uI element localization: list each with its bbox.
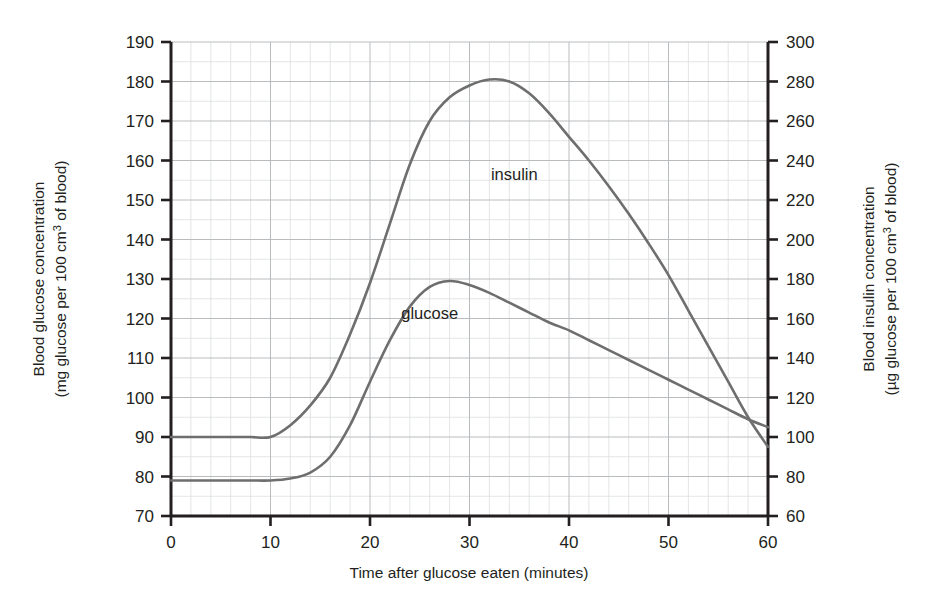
y-axis-left-tick-label: 100 (126, 389, 154, 408)
y-axis-right-tick-label: 100 (786, 428, 814, 447)
y-left-axis-title-line2: (mg glucose per 100 cm3 of blood) (51, 160, 69, 397)
y-axis-left-tick-label: 140 (126, 231, 154, 250)
y-axis-left-tick-label: 190 (126, 33, 154, 52)
y-axis-left-tick-label: 80 (135, 468, 154, 487)
y-left-title-part-a: (mg glucose per 100 cm (52, 231, 69, 397)
x-axis-tick-label: 20 (361, 533, 380, 552)
y-axis-left-tick-label: 120 (126, 310, 154, 329)
x-axis-tick-label: 50 (659, 533, 678, 552)
x-axis-tick-label: 0 (166, 533, 175, 552)
y-right-axis-title-line1: Blood insulin concentration (860, 186, 877, 371)
x-axis-tick-label: 10 (261, 533, 280, 552)
y-axis-right-tick-label: 200 (786, 231, 814, 250)
x-axis-tick-label: 60 (759, 533, 778, 552)
y-axis-right-tick-label: 300 (786, 33, 814, 52)
y-right-title-part-b: of blood) (882, 162, 899, 227)
y-axis-left-tick-label: 70 (135, 507, 154, 526)
x-axis-tick-label: 30 (460, 533, 479, 552)
y-axis-left-tick-label: 180 (126, 73, 154, 92)
y-axis-left-tick-label: 160 (126, 152, 154, 171)
y-left-axis-title-line1: Blood glucose concentration (30, 182, 47, 377)
y-axis-right-tick-label: 220 (786, 191, 814, 210)
y-axis-right-tick-label: 120 (786, 389, 814, 408)
y-axis-right-tick-label: 260 (786, 112, 814, 131)
y-axis-left-tick-label: 130 (126, 270, 154, 289)
y-right-title-part-a: (µg glucose per 100 cm (882, 233, 899, 395)
y-right-axis-title-line2: (µg glucose per 100 cm3 of blood) (881, 162, 899, 395)
y-axis-right-tick-label: 180 (786, 270, 814, 289)
y-axis-left-tick-label: 110 (127, 349, 154, 368)
y-axis-right-tick-label: 160 (786, 310, 814, 329)
chart-figure: 7080901001101201301401501601701801906080… (0, 0, 934, 612)
y-axis-right-tick-label: 280 (786, 73, 814, 92)
y-axis-right-tick-label: 240 (786, 152, 814, 171)
y-axis-right-tick-label: 60 (786, 507, 805, 526)
y-axis-right-tick-label: 140 (786, 349, 814, 368)
y-axis-right-tick-label: 80 (786, 468, 805, 487)
series-label-insulin: insulin (491, 165, 538, 183)
y-axis-left-tick-label: 170 (126, 112, 154, 131)
x-axis-title-text: Time after glucose eaten (minutes) (350, 564, 589, 581)
chart-canvas: 7080901001101201301401501601701801906080… (0, 0, 934, 612)
series-label-glucose: glucose (401, 304, 458, 322)
x-axis-tick-label: 40 (560, 533, 579, 552)
y-axis-left-tick-label: 90 (135, 428, 154, 447)
x-axis-title: Time after glucose eaten (minutes) (350, 564, 589, 581)
y-axis-left-tick-label: 150 (126, 191, 154, 210)
y-left-title-part-b: of blood) (52, 160, 69, 225)
